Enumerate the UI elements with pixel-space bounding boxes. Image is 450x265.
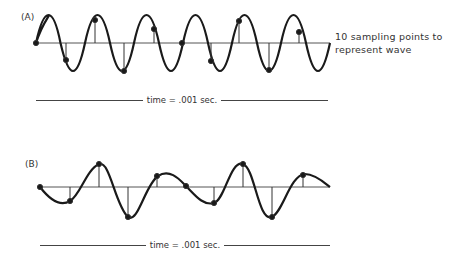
- panel-a-samples: [33, 17, 301, 73]
- panel-b-time-label: time = .001 sec.: [146, 240, 224, 250]
- panel-a-note: 10 sampling points to represent wave: [335, 30, 442, 56]
- panel-a-time-bar: time = .001 sec.: [36, 94, 328, 106]
- panel-a-figure: [33, 15, 330, 74]
- panel-b-label: (B): [25, 159, 38, 169]
- panel-b-samples: [37, 161, 305, 219]
- panel-b-time-bar: time = .001 sec.: [40, 239, 330, 251]
- panel-b-figure: [37, 161, 330, 219]
- panel-b-time-line-right: [224, 245, 330, 246]
- panel-a-label: (A): [21, 12, 34, 22]
- panel-a-time-line-right: [221, 100, 328, 101]
- panel-a-note-line2: represent wave: [335, 43, 442, 56]
- panel-b-wave: [40, 164, 330, 218]
- panel-a-note-line1: 10 sampling points to: [335, 30, 442, 43]
- panel-a-time-label: time = .001 sec.: [143, 95, 221, 105]
- panel-b-time-line-left: [40, 245, 146, 246]
- panel-a-time-line-left: [36, 100, 143, 101]
